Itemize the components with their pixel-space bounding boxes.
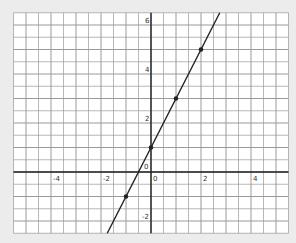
- y-tick-label: -2: [142, 213, 149, 221]
- y-tick-label: 6: [145, 17, 150, 25]
- y-tick-label: 0: [144, 163, 148, 171]
- x-tick-label: 2: [203, 175, 207, 183]
- data-point: [149, 145, 154, 150]
- data-point: [199, 47, 204, 52]
- x-tick-label: 0: [153, 175, 157, 183]
- y-tick-label: 4: [145, 66, 150, 74]
- x-tick-label: 4: [253, 175, 258, 183]
- x-tick-label: -2: [103, 175, 110, 183]
- data-point: [174, 96, 179, 101]
- y-tick-label: 2: [145, 115, 149, 123]
- data-point: [124, 194, 129, 199]
- coordinate-plane: -4-2024-20246: [0, 0, 296, 243]
- x-tick-label: -4: [53, 175, 61, 183]
